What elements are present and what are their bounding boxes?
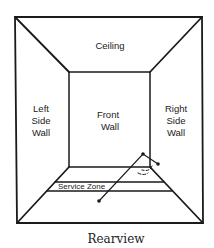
bottom-right-edge — [150, 167, 203, 223]
service-zone-label: Service Zone — [58, 182, 106, 191]
top-right-edge — [150, 17, 202, 72]
left-wall-label-3: Wall — [32, 127, 50, 138]
ball-rebound-dash — [138, 173, 148, 175]
left-wall-label-1: Left — [33, 103, 49, 114]
ball-start-point — [97, 199, 101, 203]
front-wall-label-2: Wall — [101, 121, 119, 132]
front-wall-label-1: Front — [97, 109, 120, 120]
left-wall-label-2: Side — [31, 115, 50, 126]
ball-side-contact — [156, 162, 160, 166]
right-wall-label-2: Side — [166, 115, 185, 126]
ball-trajectory — [99, 154, 158, 201]
bottom-left-edge — [17, 167, 69, 223]
diagram-caption: Rearview — [87, 232, 145, 246]
court-diagram: Ceiling Left Side Wall Front Wall Right … — [0, 0, 214, 248]
ceiling-label: Ceiling — [95, 40, 124, 51]
ball-wall-contact — [141, 152, 145, 156]
right-wall-label-1: Right — [165, 103, 188, 114]
top-left-edge — [15, 17, 69, 72]
right-wall-label-3: Wall — [167, 127, 185, 138]
